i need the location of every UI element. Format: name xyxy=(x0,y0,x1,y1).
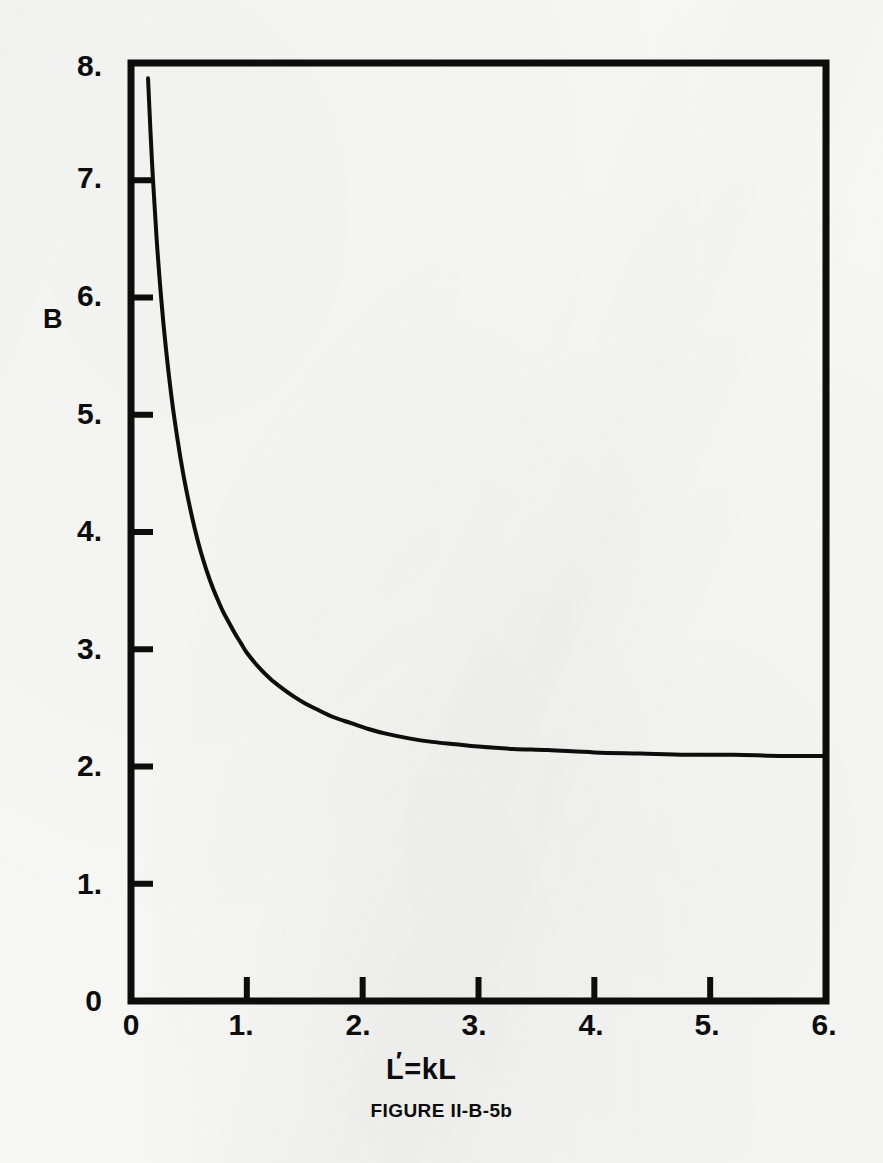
x-tick-label-5: 5. xyxy=(679,1010,735,1040)
x-axis-title-rest: =kL xyxy=(404,1053,456,1085)
y-tick-label-5: 5. xyxy=(56,399,102,429)
x-tick-label-1: 1. xyxy=(213,1010,269,1040)
figure-caption: FIGURE II-B-5b xyxy=(0,1101,883,1120)
y-tick-label-3: 3. xyxy=(56,634,102,664)
x-tick-label-2: 2. xyxy=(330,1010,386,1040)
y-axis-title: B xyxy=(43,306,63,333)
y-tick-label-4: 4. xyxy=(56,516,102,546)
y-tick-label-0: 0 xyxy=(56,986,102,1016)
y-tick-label-7: 7. xyxy=(56,163,102,193)
y-tick-label-2: 2. xyxy=(56,751,102,781)
x-tick-label-6: 6. xyxy=(796,1010,852,1040)
y-axis-tick-marks xyxy=(134,180,153,884)
y-tick-label-8: 8. xyxy=(56,51,102,81)
figure-container: 8. 7. 6. 5. 4. 3. 2. 1. 0 B 0 1. 2. 3. 4… xyxy=(0,0,883,1163)
x-tick-label-0: 0 xyxy=(103,1010,159,1040)
x-axis-tick-marks xyxy=(247,977,710,998)
axis-frame xyxy=(131,63,826,1001)
x-tick-label-4: 4. xyxy=(563,1010,619,1040)
chart-plot-area xyxy=(0,0,883,1163)
data-series-group xyxy=(148,78,826,756)
scanned-page-background: 8. 7. 6. 5. 4. 3. 2. 1. 0 B 0 1. 2. 3. 4… xyxy=(0,0,883,1163)
series-line-b-vs-lprime xyxy=(148,78,826,756)
x-axis-title: L=kL xyxy=(386,1055,457,1084)
x-tick-label-3: 3. xyxy=(446,1010,502,1040)
x-axis-title-prime-letter: L xyxy=(386,1055,404,1084)
y-tick-label-1: 1. xyxy=(56,869,102,899)
y-tick-label-6: 6. xyxy=(56,281,102,311)
